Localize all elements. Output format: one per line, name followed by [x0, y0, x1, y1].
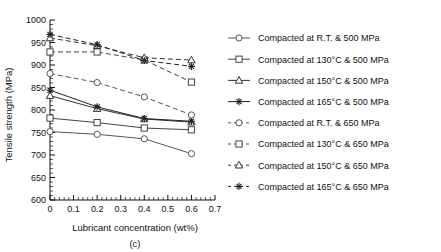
- tensile-strength-chart: 00.10.20.30.40.50.60.7 60065070075080085…: [0, 0, 441, 252]
- x-tick-label: 0.2: [91, 204, 104, 214]
- y-tick-label: 700: [31, 150, 46, 160]
- x-tick-label: 0.7: [209, 204, 222, 214]
- y-tick-label: 900: [31, 60, 46, 70]
- x-tick-label: 0: [47, 204, 52, 214]
- x-tick-label: 0.4: [138, 204, 151, 214]
- legend-label: Compacted at R.T. & 500 MPa: [258, 33, 380, 43]
- x-tick-label: 0.1: [67, 204, 80, 214]
- legend-marker-circle-icon: [236, 120, 242, 126]
- y-tick-label: 600: [31, 195, 46, 205]
- y-tick-label: 950: [31, 38, 46, 48]
- x-tick-label: 0.5: [162, 204, 175, 214]
- x-tick-label: 0.6: [185, 204, 198, 214]
- y-tick-label: 850: [31, 83, 46, 93]
- y-tick-label: 750: [31, 128, 46, 138]
- legend-label: Compacted at 150°C & 500 MPa: [258, 76, 389, 86]
- legend-label: Compacted at R.T. & 650 MPa: [258, 118, 380, 128]
- legend-label: Compacted at 130°C & 650 MPa: [258, 139, 389, 149]
- y-tick-label: 650: [31, 173, 46, 183]
- legend-marker-square-icon: [236, 141, 242, 147]
- legend-label: Compacted at 165°C & 650 MPa: [258, 182, 389, 192]
- legend-marker-star-icon: [235, 98, 242, 105]
- y-tick-label: 800: [31, 105, 46, 115]
- x-tick-label: 0.3: [114, 204, 127, 214]
- legend-label: Compacted at 150°C & 650 MPa: [258, 161, 389, 171]
- y-tick-label: 1000: [26, 15, 46, 25]
- y-axis-title: Tensile strength (MPa): [3, 67, 14, 162]
- panel-label: (c): [129, 238, 140, 249]
- x-axis-title: Lubricant concentration (wt%): [72, 222, 198, 233]
- legend-marker-star-icon: [235, 183, 242, 190]
- legend-label: Compacted at 165°C & 500 MPa: [258, 97, 389, 107]
- legend-label: Compacted at 130°C & 500 MPa: [258, 55, 389, 65]
- legend-marker-square-icon: [236, 56, 242, 62]
- legend-marker-circle-icon: [236, 35, 242, 41]
